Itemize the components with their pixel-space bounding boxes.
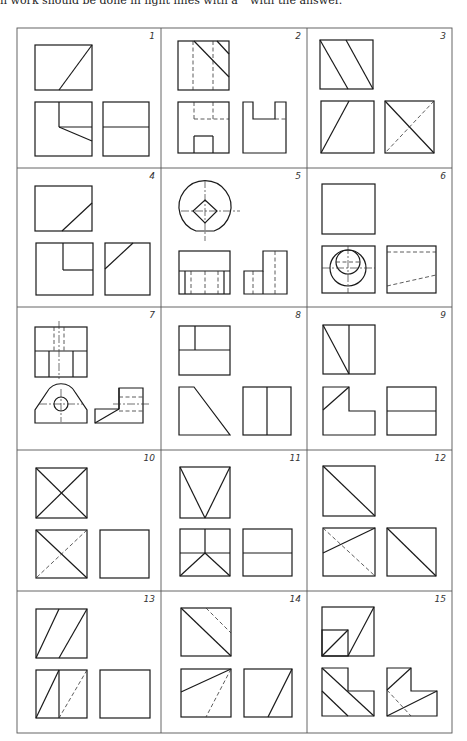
view-outline	[178, 102, 229, 153]
view-outline	[100, 670, 150, 718]
view-outline	[321, 101, 374, 153]
problem-cell-14: 14	[181, 594, 301, 717]
problem-cell-3: 3	[320, 31, 446, 153]
problem-cell-12: 12	[323, 453, 446, 576]
view-outline	[181, 669, 231, 717]
problem-number: 12	[435, 453, 447, 463]
problem-cell-6: 6	[322, 171, 446, 293]
view-outline	[35, 186, 92, 231]
view-outline	[244, 251, 287, 294]
problem-cell-11: 11	[180, 453, 301, 576]
view-outline	[36, 609, 87, 658]
view-outline	[243, 102, 286, 153]
exercise-sheet: 123456789101112131415	[0, 0, 467, 741]
view-outline	[180, 467, 230, 518]
problem-number: 9	[440, 310, 446, 320]
visible-edge	[105, 243, 133, 269]
visible-edge	[387, 691, 437, 716]
view-outline	[36, 243, 93, 295]
problem-cell-8: 8	[179, 310, 301, 435]
problem-cell-2: 2	[178, 31, 301, 153]
problem-number: 2	[295, 31, 301, 41]
problem-number: 10	[144, 453, 156, 463]
visible-edge	[180, 467, 205, 518]
view-outline	[322, 184, 375, 234]
visible-edge	[323, 528, 375, 553]
view-outline	[387, 246, 436, 293]
view-outline	[387, 668, 437, 716]
view-outline	[179, 387, 230, 435]
visible-edge	[181, 669, 231, 692]
view-outline	[36, 670, 87, 718]
hidden-edge	[323, 528, 375, 576]
visible-edge	[62, 203, 92, 231]
view-outline	[178, 41, 229, 90]
problem-number: 14	[290, 594, 302, 604]
problem-number: 13	[144, 594, 156, 604]
view-outline	[179, 251, 230, 294]
hidden-edge	[387, 690, 411, 716]
visible-edge	[323, 325, 349, 374]
visible-edge	[59, 45, 92, 90]
problem-cell-13: 13	[36, 594, 155, 718]
visible-edge	[322, 630, 348, 656]
visible-edge	[59, 127, 92, 141]
problem-cell-4: 4	[35, 171, 155, 295]
problem-cell-10: 10	[36, 453, 155, 578]
visible-edge	[323, 466, 375, 516]
visible-edge	[346, 40, 373, 89]
view-outline	[105, 243, 150, 295]
problem-number: 1	[149, 31, 155, 41]
problem-cell-1: 1	[35, 31, 155, 156]
view-outline	[320, 40, 373, 89]
problem-number: 5	[295, 171, 301, 181]
visible-edge	[217, 41, 229, 54]
problem-number: 7	[149, 310, 155, 320]
view-outline	[323, 387, 375, 435]
problem-cell-9: 9	[323, 310, 446, 435]
hidden-edge	[59, 670, 87, 718]
problem-number: 4	[149, 171, 155, 181]
visible-edge	[180, 553, 205, 576]
problem-number: 8	[295, 310, 301, 320]
visible-edge	[205, 553, 230, 576]
visible-edge	[323, 387, 349, 410]
hidden-edge	[387, 275, 436, 286]
view-outline	[100, 530, 149, 578]
visible-edge	[205, 467, 230, 518]
visible-edge	[322, 691, 348, 716]
problem-cell-5: 5	[179, 171, 301, 294]
problem-number: 15	[435, 594, 447, 604]
visible-edge	[95, 409, 119, 423]
hidden-edge	[206, 608, 231, 633]
problem-cell-15: 15	[322, 594, 446, 716]
problem-number: 3	[440, 31, 446, 41]
visible-edge	[268, 669, 292, 717]
visible-edge	[181, 608, 231, 656]
view-outline	[103, 102, 149, 156]
visible-edge	[320, 40, 348, 89]
grid-frame	[17, 28, 452, 733]
hidden-edge	[206, 669, 231, 717]
visible-edge	[387, 668, 411, 690]
visible-edge	[36, 609, 59, 658]
visible-edge	[348, 607, 374, 656]
problem-number: 6	[440, 171, 446, 181]
visible-edge	[321, 101, 349, 153]
visible-edge	[387, 528, 436, 576]
problem-number: 11	[290, 453, 301, 463]
problem-cell-7: 7	[35, 310, 155, 423]
view-outline	[35, 327, 87, 377]
visible-edge	[59, 609, 87, 658]
visible-edge	[36, 670, 59, 718]
visible-edge	[194, 41, 229, 77]
view-outline	[244, 669, 292, 717]
